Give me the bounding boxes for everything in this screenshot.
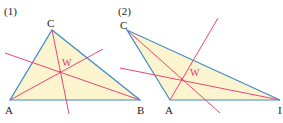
point-w-label-2: W — [190, 68, 199, 78]
point-w-1 — [59, 71, 62, 74]
vertex-a-1: A — [5, 105, 13, 116]
figure-1-label: (1) — [4, 6, 17, 17]
point-w-2 — [181, 78, 184, 81]
point-w-label-1: W — [62, 58, 71, 68]
triangle-2 — [127, 30, 280, 100]
diagram-root: (1) C A B W (2) C A I W — [0, 0, 283, 123]
figure-2 — [120, 18, 280, 113]
figure-2-label: (2) — [118, 6, 131, 17]
vertex-c-2: C — [120, 20, 127, 31]
vertex-b-2: I — [278, 105, 282, 116]
vertex-b-1: B — [137, 105, 144, 116]
figure-1 — [5, 30, 140, 114]
vertex-a-2: A — [165, 105, 173, 116]
vertex-c-1: C — [47, 18, 54, 29]
